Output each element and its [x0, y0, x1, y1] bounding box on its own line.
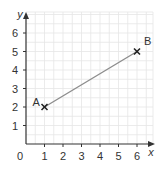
- x-tick-label: 3: [78, 150, 84, 162]
- y-tick-label: 3: [12, 83, 18, 95]
- grid-lines: [26, 12, 153, 144]
- y-axis-arrow-icon: [23, 12, 29, 19]
- x-tick-label: 5: [115, 150, 121, 162]
- coordinate-grid-chart: 1234561234560xy AB: [0, 0, 161, 169]
- origin-label: 0: [17, 150, 23, 162]
- tick-marks: [23, 33, 137, 147]
- tick-labels: 1234561234560xy: [12, 8, 154, 162]
- x-tick-label: 6: [134, 150, 140, 162]
- data-series: AB: [33, 35, 152, 111]
- y-tick-label: 1: [12, 120, 18, 132]
- y-axis-label: y: [16, 8, 24, 20]
- y-tick-label: 4: [12, 64, 18, 76]
- y-tick-label: 5: [12, 46, 18, 58]
- x-tick-label: 1: [41, 150, 47, 162]
- y-tick-label: 6: [12, 27, 18, 39]
- x-tick-label: 2: [60, 150, 66, 162]
- point-label-a: A: [33, 96, 41, 108]
- y-tick-label: 2: [12, 101, 18, 113]
- point-label-b: B: [144, 35, 151, 47]
- x-axis-label: x: [147, 146, 154, 158]
- x-tick-label: 4: [97, 150, 103, 162]
